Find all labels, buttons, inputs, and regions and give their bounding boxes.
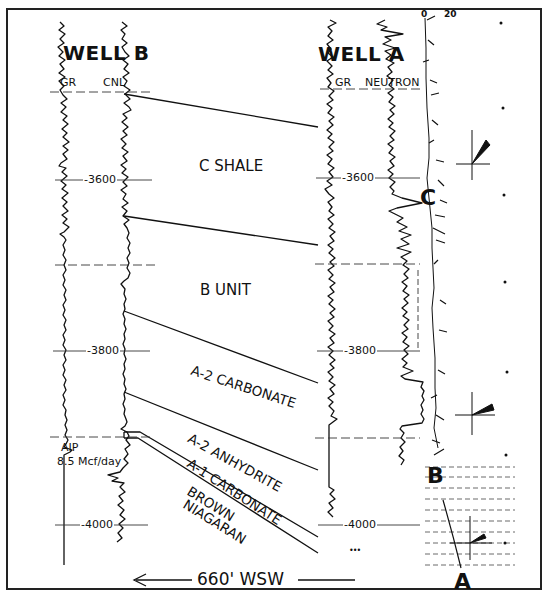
- dip-zone-a: A: [454, 569, 471, 594]
- well-a-depth-4000: -4000: [343, 518, 377, 531]
- gas-rate-label: 8.5 Mcf/day: [57, 455, 121, 469]
- well-a-gr-log: [325, 20, 337, 517]
- well-a-depth-3600: -3600: [341, 171, 375, 184]
- well-b-gr-log: [58, 22, 72, 565]
- aip-label: AIP: [61, 441, 78, 455]
- well-b-depth-4000: -4000: [80, 518, 114, 531]
- well-b-gr-label: GR: [60, 76, 76, 89]
- well-a-gr-label: GR: [335, 76, 351, 89]
- well-a-title: WELL A: [318, 42, 405, 66]
- unit-b-unit: B UNIT: [200, 281, 251, 299]
- top-c-shale-line: [124, 94, 318, 127]
- dip-scale-0: 0: [421, 9, 427, 19]
- top-b-unit-line: [124, 216, 318, 245]
- well-b-depth-3600: -3600: [83, 173, 117, 186]
- distance-label: 660' WSW: [197, 569, 284, 589]
- well-a-neutron-label: NEUTRON: [365, 76, 419, 89]
- well-b-title: WELL B: [63, 41, 149, 65]
- dip-zone-c: C: [420, 185, 436, 210]
- well-b-depth-3800: -3800: [86, 344, 120, 357]
- unit-c-shale: C SHALE: [199, 157, 263, 175]
- dip-scale-20: 20: [444, 9, 457, 19]
- well-a-depth-3800: -3800: [343, 344, 377, 357]
- well-a-dots: •••: [349, 544, 360, 558]
- well-b-cnl-label: CNL: [103, 76, 125, 89]
- dip-zone-b: B: [427, 463, 444, 488]
